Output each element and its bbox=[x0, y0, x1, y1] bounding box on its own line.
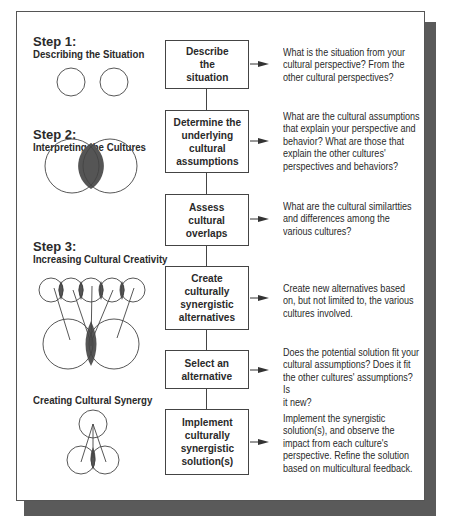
process-box-describe: Describe the situation bbox=[165, 40, 249, 89]
description-select: Does the potential solution fit your cul… bbox=[283, 346, 423, 408]
process-box-select: Select an alternative bbox=[165, 350, 249, 389]
box-label: Describe the situation bbox=[186, 45, 229, 84]
process-box-create: Create culturally synergistic alternativ… bbox=[165, 266, 249, 330]
connector-5-6 bbox=[206, 389, 207, 409]
step-1-separate-circles-icon bbox=[57, 68, 128, 96]
step-3-creativity-icon bbox=[39, 278, 145, 369]
box-label: Assess cultural overlaps bbox=[186, 201, 228, 240]
step-2-overlap-circles-icon bbox=[45, 139, 137, 193]
box-label: Create culturally synergistic alternativ… bbox=[179, 272, 235, 324]
arrow-right-icon bbox=[250, 366, 270, 374]
arrow-right-icon bbox=[250, 294, 270, 302]
description-assess: What are the cultural similartties and d… bbox=[283, 200, 423, 237]
arrow-right-icon bbox=[250, 137, 270, 145]
description-implement: Implement the synergistic solution(s), a… bbox=[283, 412, 423, 474]
description-describe: What is the situation from your cultural… bbox=[283, 46, 423, 83]
process-box-determine: Determine the underlying cultural assump… bbox=[165, 110, 249, 173]
connector-4-5 bbox=[206, 330, 207, 350]
box-label: Implement culturally synergistic solutio… bbox=[180, 416, 233, 468]
box-label: Select an alternative bbox=[182, 357, 233, 383]
connector-2-3 bbox=[206, 173, 207, 194]
process-box-implement: Implement culturally synergistic solutio… bbox=[165, 409, 249, 475]
synergy-icon bbox=[67, 410, 119, 474]
arrow-right-icon bbox=[250, 215, 270, 223]
process-box-assess: Assess cultural overlaps bbox=[165, 194, 249, 246]
arrow-right-icon bbox=[250, 60, 270, 68]
description-create: Create new alternatives based on, but no… bbox=[283, 282, 423, 319]
connector-1-2 bbox=[206, 89, 207, 110]
box-label: Determine the underlying cultural assump… bbox=[173, 116, 240, 168]
description-determine: What are the cultural assumptions that e… bbox=[283, 110, 423, 172]
arrow-right-icon bbox=[250, 438, 270, 446]
connector-3-4 bbox=[206, 246, 207, 266]
